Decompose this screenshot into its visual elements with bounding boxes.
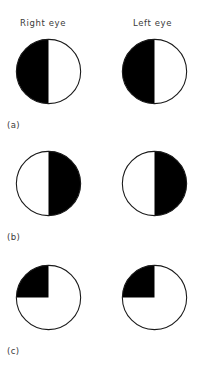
shaded-sector-right-half [155, 151, 187, 215]
field-row-a: (a) [0, 36, 200, 146]
row-label-c: (c) [7, 346, 20, 356]
visual-field-circle-b-left-eye [121, 150, 188, 217]
shaded-sector-left-half [122, 39, 154, 103]
row-label-a: (a) [7, 120, 20, 130]
column-header-right-eye: Right eye [20, 18, 66, 28]
visual-field-circle-b-right-eye [15, 150, 82, 217]
field-row-c: (c) [0, 262, 200, 372]
visual-field-circle-a-right-eye [15, 38, 82, 105]
shaded-sector-right-half [49, 151, 81, 215]
shaded-sector-left-half [16, 39, 48, 103]
visual-field-figure: Right eye Left eye (a) [0, 0, 200, 382]
row-label-b: (b) [7, 232, 20, 242]
field-row-b: (b) [0, 148, 200, 258]
visual-field-circle-c-right-eye [15, 264, 82, 331]
visual-field-circle-a-left-eye [121, 38, 188, 105]
column-header-left-eye: Left eye [133, 18, 172, 28]
visual-field-circle-c-left-eye [121, 264, 188, 331]
